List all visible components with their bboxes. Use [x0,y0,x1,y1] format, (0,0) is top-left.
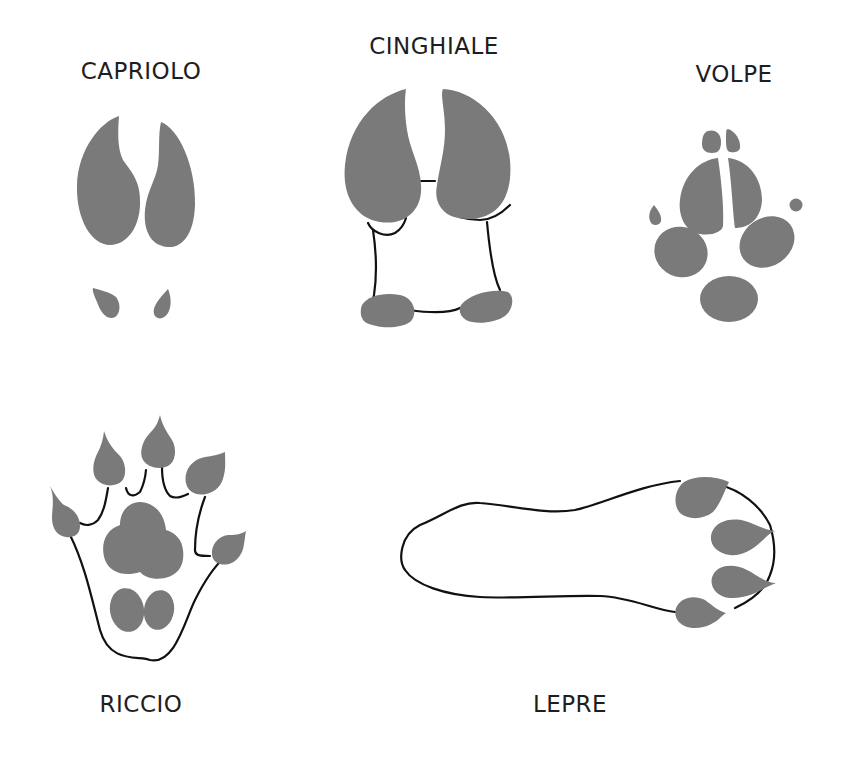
hoof-left [77,116,140,245]
toe-1 [50,486,80,537]
toe-4 [186,452,226,495]
heel-pad [700,276,758,322]
claw-mark-right [726,129,740,152]
claw-mark-side-right [790,199,803,212]
toe-4 [675,597,726,628]
toe-5 [212,531,246,565]
claw-mark-left [702,130,721,153]
footprint-lepre [401,477,776,628]
toe-3 [141,415,175,468]
footprint-capriolo [77,116,195,318]
footprint-volpe [646,129,805,322]
hoof-right [436,89,510,219]
footprints-illustration [0,0,843,765]
claw-mark-side-left [649,205,661,225]
footprint-cinghiale [345,89,513,327]
toe-center-right [728,158,762,228]
dewclaw-left [361,294,415,327]
toe-1 [675,477,729,518]
heel-pad-right [141,588,177,633]
heel-pad-left [106,585,147,634]
dewclaw-right [460,291,513,323]
hoof-right [145,122,195,247]
toe-3 [712,566,776,598]
toe-2 [93,431,125,485]
dewclaw-left [93,288,120,318]
dewclaw-right [154,289,171,318]
toe-2 [711,520,775,556]
hoof-left [345,89,422,223]
palm-pad [103,502,183,579]
toe-center-left [680,158,724,235]
footprint-riccio [50,415,246,660]
